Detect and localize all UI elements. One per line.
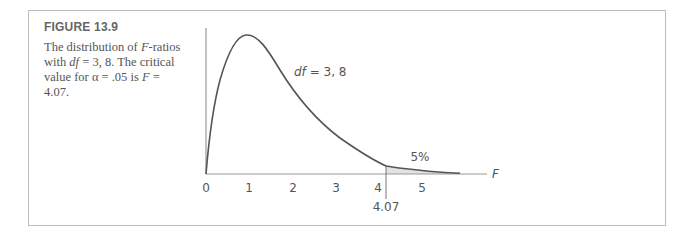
x-tick-3: 3 bbox=[332, 181, 340, 195]
f-distribution-chart: 0 1 2 3 4 5 4.07 5% F df = 3, 8 bbox=[0, 0, 689, 233]
x-tick-0: 0 bbox=[202, 181, 210, 195]
curve-df-label: df = 3, 8 bbox=[294, 65, 346, 79]
tail-percent-label: 5% bbox=[410, 150, 429, 164]
x-tick-5: 5 bbox=[418, 181, 426, 195]
x-axis-label: F bbox=[492, 167, 500, 181]
x-tick-4: 4 bbox=[374, 181, 382, 195]
x-tick-2: 2 bbox=[289, 181, 297, 195]
x-tick-1: 1 bbox=[245, 181, 253, 195]
df-values: = 3, 8 bbox=[306, 65, 347, 79]
critical-value-label: 4.07 bbox=[373, 200, 400, 214]
